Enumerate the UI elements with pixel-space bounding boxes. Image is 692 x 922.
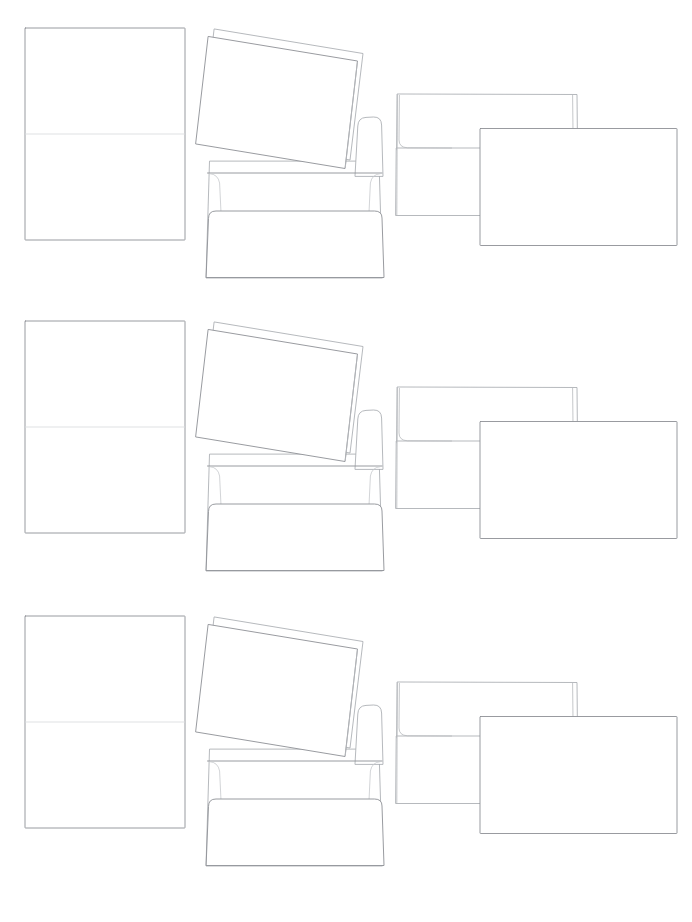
stationery-illustration-canvas [0,0,692,922]
stationery-illustration-stage: Stationery Set Line Art Three identical … [0,0,692,922]
